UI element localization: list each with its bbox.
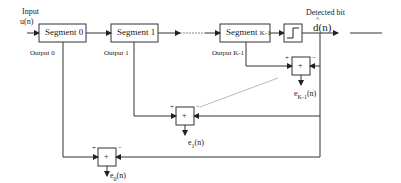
output-1-label: Output 1 bbox=[104, 50, 129, 57]
error-k1-sub: K-1 bbox=[298, 94, 307, 100]
detected-signal: d(n) bbox=[313, 22, 331, 33]
error-0-arg: (n) bbox=[117, 171, 126, 180]
input-signal: u(n) bbox=[20, 18, 33, 26]
output-k1-label: Output K-1 bbox=[212, 50, 244, 57]
adder-1-minus: − bbox=[196, 104, 200, 111]
output-0-label: Output 0 bbox=[30, 50, 55, 57]
adder-1-symbol: + bbox=[182, 112, 187, 120]
error-k1-arg: (n) bbox=[307, 89, 316, 98]
error-0-label: e0(n) bbox=[110, 172, 126, 182]
adder-k1-symbol: + bbox=[298, 62, 303, 70]
segment-k1-suffix: K-1 bbox=[260, 29, 271, 37]
detected-bit-title: Detected bit bbox=[306, 9, 345, 17]
error-1-label: e1(n) bbox=[188, 139, 204, 149]
adder-0-symbol: + bbox=[104, 153, 109, 161]
adder-k1-plus: + bbox=[285, 55, 289, 62]
adder-0-plus: + bbox=[92, 145, 96, 152]
segment-1-label: Segment 1 bbox=[117, 28, 155, 37]
adder-1-plus: + bbox=[170, 104, 174, 111]
error-k1-label: eK-1(n) bbox=[294, 90, 316, 100]
input-title: Input bbox=[22, 8, 39, 16]
adder-0-minus: − bbox=[118, 145, 122, 152]
adder-k1-minus: − bbox=[312, 55, 316, 62]
segment-k1-text: Segment bbox=[226, 27, 258, 37]
error-1-arg: (n) bbox=[195, 138, 204, 147]
segment-0-label: Segment 0 bbox=[45, 28, 83, 37]
segment-k1-label: Segment K-1 bbox=[226, 28, 271, 37]
